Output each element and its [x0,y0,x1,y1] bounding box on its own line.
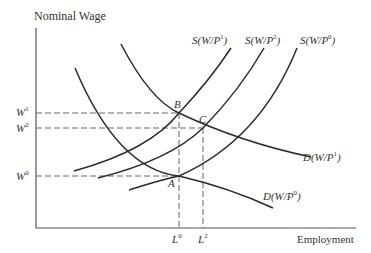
x-axis-label: Employment [297,234,354,245]
supply-curve-p1 [74,48,231,171]
point-label-a: A [168,178,175,189]
wage-label-w0: W0 [16,171,29,182]
wage-label-w1: W1 [16,107,29,118]
supply-label-p0: S(W/P0) [300,35,335,46]
point-label-c: C [199,114,206,125]
supply-label-p2: S(W/P2) [245,35,280,46]
wage-label-w2: W2 [16,123,29,134]
employment-label-l0: L0 [172,234,182,245]
point-label-b: B [174,99,181,110]
y-axis-label: Nominal Wage [34,10,106,22]
employment-label-l2: L2 [198,234,208,245]
supply-label-p1: S(W/P1) [192,35,227,46]
demand-label-p0: D(W/P0) [263,191,301,202]
demand-label-p1: D(W/P1) [303,152,341,163]
